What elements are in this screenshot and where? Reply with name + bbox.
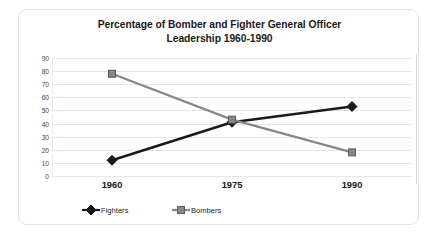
y-axis-tick-label: 50: [27, 107, 49, 114]
legend-label: Bombers: [191, 206, 221, 215]
data-point-marker-diamond: [347, 102, 357, 112]
x-axis-tick-label: 1975: [197, 180, 267, 190]
x-axis-tick-label: 1990: [317, 180, 387, 190]
chart-title-line-1: Percentage of Bomber and Fighter General…: [19, 18, 420, 32]
data-point-marker-square: [229, 116, 236, 123]
series-line: [112, 107, 352, 161]
series-line: [112, 74, 352, 153]
chart-card: Percentage of Bomber and Fighter General…: [18, 9, 419, 225]
legend-diamond-marker-icon: [81, 204, 101, 216]
y-axis-tick-label: 60: [27, 94, 49, 101]
chart-legend: FightersBombers: [19, 203, 420, 221]
data-point-marker-square: [349, 149, 356, 156]
x-axis-tick-label: 1960: [77, 180, 147, 190]
legend-label: Fighters: [101, 206, 128, 215]
legend-item-fighters[interactable]: Fighters: [81, 203, 128, 217]
chart-title: Percentage of Bomber and Fighter General…: [19, 18, 420, 46]
y-axis-tick-label: 20: [27, 146, 49, 153]
y-axis-tick-label: 30: [27, 133, 49, 140]
plot-area: [52, 58, 412, 176]
chart-title-line-2: Leadership 1960-1990: [19, 32, 420, 46]
y-axis: 9080706050403020100: [27, 58, 49, 176]
data-point-marker-diamond: [86, 205, 96, 215]
y-axis-tick-label: 90: [27, 55, 49, 62]
data-point-marker-diamond: [107, 155, 117, 165]
y-axis-tick-label: 70: [27, 81, 49, 88]
legend-square-marker-icon: [171, 204, 191, 216]
y-axis-tick-label: 10: [27, 159, 49, 166]
y-axis-tick-label: 0: [27, 173, 49, 180]
gridline: [52, 176, 412, 177]
series-layer: [52, 58, 412, 176]
plot-wrapper: 9080706050403020100: [27, 58, 412, 176]
series-fighters: [107, 102, 357, 166]
y-axis-tick-label: 40: [27, 120, 49, 127]
data-point-marker-square: [178, 207, 185, 214]
data-point-marker-square: [109, 70, 116, 77]
series-bombers: [109, 70, 356, 156]
legend-item-bombers[interactable]: Bombers: [171, 203, 221, 217]
y-axis-tick-label: 80: [27, 68, 49, 75]
x-axis: 196019751990: [52, 180, 412, 194]
plot-right-border: [416, 54, 417, 184]
